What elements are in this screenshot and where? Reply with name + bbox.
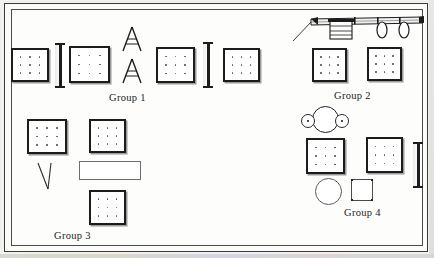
page-frame: Group 1	[4, 3, 428, 252]
desk-dot-grid	[311, 143, 340, 169]
desk-dot-grid	[228, 53, 255, 77]
beam-shaft	[417, 142, 420, 188]
desk-dot-grid	[372, 52, 397, 76]
easel-lower-icon[interactable]	[120, 57, 144, 85]
round-table-seat-right	[335, 114, 349, 128]
desk-block-g1-b[interactable]	[69, 46, 110, 83]
desk-block-g4-b[interactable]	[366, 137, 403, 173]
beam-cap-bottom	[55, 86, 65, 88]
group-1-label: Group 1	[109, 92, 146, 103]
scan-edge-bottom	[0, 254, 434, 258]
beam-shaft	[59, 43, 62, 88]
desk-block-g2-b[interactable]	[367, 47, 402, 81]
beam-cap-bottom	[203, 86, 213, 88]
desk-dot-grid	[371, 142, 398, 168]
desk-dot-grid	[161, 52, 190, 78]
beam-g4-right[interactable]	[413, 142, 423, 188]
desk-dot-grid	[74, 51, 105, 78]
corner-dot-square[interactable]	[351, 179, 373, 201]
desk-dot-grid	[16, 53, 44, 77]
group-4-label: Group 4	[344, 207, 381, 218]
desk-dot-grid	[317, 53, 342, 77]
thin-rectangle-table[interactable]	[79, 161, 141, 180]
group-3-label: Group 3	[54, 230, 91, 241]
beam-shaft	[207, 42, 210, 88]
desk-dot-grid	[94, 195, 121, 220]
desk-block-g1-c[interactable]	[156, 47, 195, 83]
group-2-label: Group 2	[334, 90, 371, 101]
desk-block-g1-a[interactable]	[11, 48, 49, 82]
beam-cap-bottom	[413, 186, 423, 188]
desk-block-g3-b[interactable]	[89, 119, 126, 153]
desk-block-g3-a[interactable]	[27, 119, 67, 154]
desk-dot-grid	[32, 124, 62, 149]
desk-block-g3-c[interactable]	[89, 190, 126, 225]
desk-block-g1-d[interactable]	[223, 48, 260, 82]
diagram-canvas: Group 1	[0, 0, 434, 258]
circle-table[interactable]	[315, 178, 342, 205]
desk-dot-grid	[94, 124, 121, 148]
scan-edge-right	[429, 0, 434, 258]
beam-g1-right[interactable]	[203, 42, 213, 88]
v-marker[interactable]	[35, 161, 57, 191]
round-table-seat-left	[301, 114, 315, 128]
desk-block-g4-a[interactable]	[306, 138, 345, 174]
desk-block-g2-a[interactable]	[312, 48, 347, 82]
counter-assembly[interactable]	[291, 11, 425, 43]
round-table-two-seats[interactable]	[301, 106, 349, 134]
beam-g1-left[interactable]	[55, 43, 65, 88]
easel-upper-icon[interactable]	[120, 25, 144, 53]
